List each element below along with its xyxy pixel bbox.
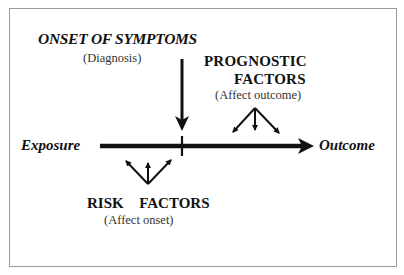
risk-title: RISK FACTORS (87, 196, 209, 211)
outcome-label: Outcome (319, 138, 375, 153)
onset-title: ONSET OF SYMPTOMS (38, 31, 197, 47)
prognostic-title-line1: PROGNOSTIC (204, 54, 307, 69)
risk-arrows-icon (126, 160, 171, 184)
prognostic-subtitle: (Affect outcome) (215, 89, 301, 102)
prognostic-title-line2: FACTORS (234, 72, 306, 87)
exposure-label: Exposure (21, 138, 80, 153)
prognostic-arrows-icon (233, 108, 279, 133)
risk-subtitle: (Affect onset) (104, 214, 174, 227)
timeline-arrow (100, 138, 314, 154)
onset-down-arrow-icon (175, 59, 189, 131)
onset-subtitle: (Diagnosis) (83, 52, 141, 65)
